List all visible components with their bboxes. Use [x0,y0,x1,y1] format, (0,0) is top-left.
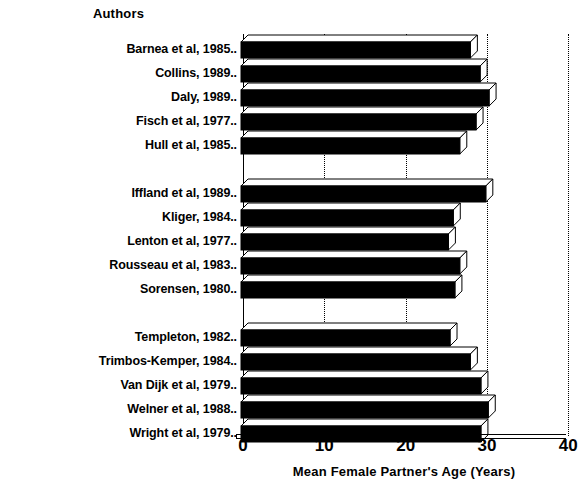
bar-3d-shape [240,274,463,299]
bar [240,234,454,250]
bar-row: Kliger, 1984.. [0,210,585,226]
bar-top-face [241,395,495,402]
bar-top-face [241,107,483,114]
bar [240,402,494,418]
category-label: Van Dijk et al, 1979.. [0,377,237,394]
bar-row: Templeton, 1982.. [0,330,585,346]
bar-top-face [241,35,477,42]
bar-row: Rousseau et al, 1983.. [0,258,585,274]
category-label: Hull et al, 1985.. [0,137,237,154]
bar-chart: Authors Barnea et al, 1985..Collins, 198… [0,0,585,489]
bar-top-face [241,83,496,90]
bar-3d-shape [240,346,478,371]
bar [240,114,482,130]
bar-top-face [241,419,488,426]
bar-3d-shape [240,202,461,227]
plot-area: Barnea et al, 1985..Collins, 1989..Daly,… [0,30,585,440]
category-label: Sorensen, 1980.. [0,281,237,298]
bar-front-face [241,186,486,202]
bar-top-face [241,251,467,258]
bar-row: Barnea et al, 1985.. [0,42,585,58]
bar-front-face [241,258,460,274]
bar-front-face [241,402,488,418]
bar [240,258,466,274]
category-label: Barnea et al, 1985.. [0,41,237,58]
bar-top-face [241,131,467,138]
bar [240,282,461,298]
bar-front-face [241,210,453,226]
category-label: Collins, 1989.. [0,65,237,82]
category-label: Templeton, 1982.. [0,329,237,346]
bar [240,354,476,370]
bar-front-face [241,42,470,58]
bar [240,186,492,202]
bar [240,378,487,394]
bar-row: Fisch et al, 1977.. [0,114,585,130]
category-label: Fisch et al, 1977.. [0,113,237,130]
bar [240,330,456,346]
bar-top-face [241,275,462,282]
x-tick-10: 10 [294,436,354,456]
bar-front-face [241,330,450,346]
bar-row: Daly, 1989.. [0,90,585,106]
bar-top-face [241,371,488,378]
bar [240,210,459,226]
bar [240,42,476,58]
bar-3d-shape [240,370,489,395]
y-axis-title: Authors [0,6,237,21]
bar-3d-shape [240,106,484,131]
bar [240,90,495,106]
bar-row: Hull et al, 1985.. [0,138,585,154]
bar-3d-shape [240,130,468,155]
bar-3d-shape [240,34,478,59]
bar-front-face [241,138,460,154]
bar-front-face [241,354,470,370]
bar-row: Van Dijk et al, 1979.. [0,378,585,394]
bar-row: Collins, 1989.. [0,66,585,82]
category-label: Welner et al, 1988.. [0,401,237,418]
bar [240,138,466,154]
bar-row: Lenton et al, 1977.. [0,234,585,250]
x-axis-title: Mean Female Partner's Age (Years) [243,464,565,479]
bar-top-face [241,179,493,186]
bar-3d-shape [240,418,489,443]
bar-top-face [241,227,455,234]
category-label: Lenton et al, 1977.. [0,233,237,250]
bar-row: Trimbos-Kemper, 1984.. [0,354,585,370]
x-tick-40: 40 [538,436,585,456]
x-tick-30: 30 [457,436,517,456]
category-label: Iffland et al, 1989.. [0,185,237,202]
bar-front-face [241,378,481,394]
bar-row: Iffland et al, 1989.. [0,186,585,202]
bar-3d-shape [240,322,458,347]
bar-top-face [241,323,457,330]
x-tick-0: 0 [213,436,273,456]
bar-front-face [241,90,489,106]
x-axis-line [236,434,566,435]
bar-3d-shape [240,394,496,419]
bar-front-face [241,282,455,298]
bar-row: Sorensen, 1980.. [0,282,585,298]
category-label: Kliger, 1984.. [0,209,237,226]
bar-3d-shape [240,178,494,203]
bar-front-face [241,114,476,130]
category-label: Daly, 1989.. [0,89,237,106]
bar-3d-shape [240,82,497,107]
category-label: Rousseau et al, 1983.. [0,257,237,274]
bar-top-face [241,59,487,66]
bar-top-face [241,347,477,354]
bar-front-face [241,66,480,82]
bar-3d-shape [240,226,456,251]
category-label: Trimbos-Kemper, 1984.. [0,353,237,370]
bar-front-face [241,234,448,250]
x-tick-20: 20 [376,436,436,456]
category-label: Wright et al, 1979.. [0,425,237,442]
bar-3d-shape [240,58,488,83]
bar [240,66,486,82]
bar-3d-shape [240,250,468,275]
bar-row: Welner et al, 1988.. [0,402,585,418]
bar-top-face [241,203,460,210]
